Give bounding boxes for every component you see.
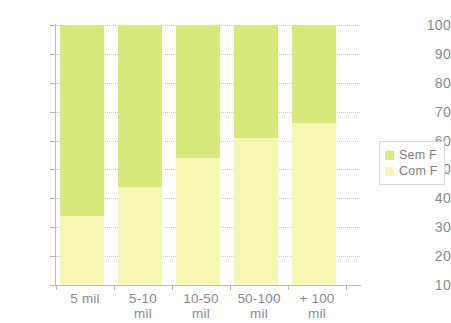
y-tick-label-70: 70: [407, 105, 451, 119]
bar-segment-com-f-1[interactable]: [118, 187, 162, 285]
y-tick-label-40: 40: [407, 191, 451, 205]
bar-group-50-100-mil[interactable]: [234, 25, 278, 285]
legend-swatch-com-f: [385, 167, 394, 176]
x-label-line-2: mil: [280, 306, 354, 321]
bar-group-5-10-mil[interactable]: [118, 25, 162, 285]
x-tick-mark-1: [114, 285, 115, 290]
x-label-line-1: + 100: [280, 291, 354, 306]
y-tick-label-80: 80: [407, 76, 451, 90]
bar-segment-com-f-2[interactable]: [176, 158, 220, 285]
x-label-plus-100-mil: + 100 mil: [280, 291, 354, 321]
plot-area: [56, 25, 360, 285]
bar-segment-com-f-3[interactable]: [234, 138, 278, 285]
x-tick-mark-2: [172, 285, 173, 290]
bar-segment-com-f-0[interactable]: [60, 216, 104, 285]
bar-segment-sem-f-2[interactable]: [176, 25, 220, 158]
bar-segment-sem-f-3[interactable]: [234, 25, 278, 138]
bar-group-5-mil[interactable]: [60, 25, 104, 285]
y-tick-label-10: 10: [407, 278, 451, 292]
legend-item-sem-f[interactable]: Sem F: [385, 147, 438, 163]
chart-legend: Sem F Com F: [379, 141, 445, 185]
legend-label-sem-f: Sem F: [399, 149, 437, 162]
legend-item-com-f[interactable]: Com F: [385, 163, 438, 179]
bar-segment-sem-f-4[interactable]: [292, 25, 336, 123]
legend-swatch-sem-f: [385, 151, 394, 160]
bar-group-plus-100-mil[interactable]: [292, 25, 336, 285]
y-tick-label-100: 100: [407, 18, 451, 32]
y-tick-label-30: 30: [407, 220, 451, 234]
y-tick-label-20: 20: [407, 249, 451, 263]
x-tick-mark-3: [230, 285, 231, 290]
y-tick-label-90: 90: [407, 47, 451, 61]
bar-group-10-50-mil[interactable]: [176, 25, 220, 285]
x-tick-mark-5: [346, 285, 347, 290]
bar-segment-com-f-4[interactable]: [292, 123, 336, 285]
x-tick-mark-0: [56, 285, 57, 290]
legend-label-com-f: Com F: [399, 165, 438, 178]
x-axis-line: [55, 285, 361, 286]
stacked-bar-chart: 100 90 80 70 60 50 40 30 20 10: [0, 0, 451, 323]
bar-segment-sem-f-1[interactable]: [118, 25, 162, 187]
x-tick-mark-4: [288, 285, 289, 290]
bar-segment-sem-f-0[interactable]: [60, 25, 104, 216]
